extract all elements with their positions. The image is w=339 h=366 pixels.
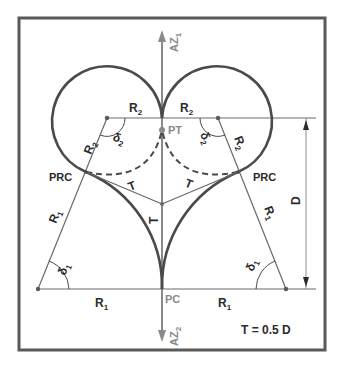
d-arrow-bottom-icon [303,277,309,287]
svg-text:AZ1: AZ1 [168,32,183,52]
az2-label: AZ [168,331,180,346]
r2-top-right-label: R2 [180,101,194,117]
right-r1-center-point [284,287,288,291]
az2-arrow-icon [158,330,166,342]
r1-bottom-right-label: R1 [218,296,232,312]
delta1-right-label: δ1 [243,256,262,273]
d-arrow-top-icon [303,120,309,130]
left-r2-center-point [105,116,109,120]
prc-left-label: PRC [49,171,72,183]
right-lower-arc [162,172,238,289]
r1-radial-left-label: R1 [46,207,66,226]
delta1-left-label: δ1 [55,260,74,277]
t-right-label: T [183,176,196,192]
pc-label: PC [165,293,180,305]
right-r2-center-point [216,116,220,120]
left-r1-center-point [36,287,40,291]
d-dimension-label: D [289,196,303,205]
left-lower-arc [86,172,162,289]
delta2-right-label: δ2 [195,130,214,147]
pi-point [160,202,164,206]
az1-label: AZ [168,37,180,52]
az1-arrow-icon [158,30,166,42]
r1-bottom-left-label: R1 [95,296,109,312]
svg-text:AZ2: AZ2 [168,326,183,346]
prc-left-point [84,170,88,174]
pt-point [159,127,165,133]
r2-top-left-label: R2 [129,101,143,117]
t-vertical-label: T [147,216,161,224]
r2-radial-right-label: R2 [229,134,249,153]
pt-label: PT [168,124,182,136]
formula-label: T = 0.5 D [241,323,291,337]
delta2-left-label: δ2 [110,130,127,149]
prc-right-label: PRC [253,171,276,183]
left-tangent-line [86,172,162,204]
prc-right-point [236,170,240,174]
t-left-label: T [126,178,139,194]
right-tangent-line [162,172,238,204]
left-dashed-arc [86,130,162,174]
heart-curve-diagram: AZ1 AZ2 PT PC PRC PRC R2 R2 R2 R2 R1 R1 … [0,0,339,366]
r1-radial-right-label: R1 [259,204,279,223]
